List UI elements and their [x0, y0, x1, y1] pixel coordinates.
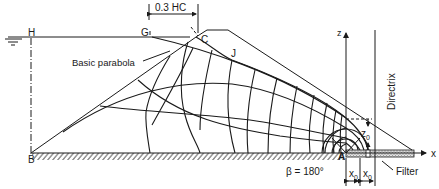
- water-surface: [5, 37, 190, 45]
- label-directrix: Directrix: [386, 73, 397, 110]
- label-x0-right: x0: [363, 168, 372, 181]
- label-h: H: [28, 27, 35, 38]
- label-dimension-0-3hc: 0.3 HC: [155, 2, 186, 13]
- label-beta: β = 180°: [286, 166, 324, 177]
- label-a: A: [338, 151, 345, 162]
- label-x-axis: x: [431, 148, 436, 159]
- impervious-base: [30, 153, 345, 160]
- label-j: J: [231, 48, 236, 59]
- label-c: C: [201, 34, 208, 45]
- flow-lines: [63, 80, 364, 150]
- phreatic-line: [196, 37, 368, 150]
- label-x0-left: x0: [349, 168, 358, 181]
- label-b: B: [28, 154, 35, 165]
- label-z-axis: z: [337, 28, 342, 38]
- flow-net-diagram: H G C J B A z x 0.3 HC Basic parabola Di…: [0, 0, 439, 189]
- basic-parabola-leader: [143, 51, 170, 61]
- label-basic-parabola: Basic parabola: [72, 57, 136, 68]
- label-filter: Filter: [396, 166, 419, 177]
- label-z0: z0: [361, 128, 370, 141]
- label-g: G: [141, 27, 149, 38]
- filter-leader: [382, 161, 393, 170]
